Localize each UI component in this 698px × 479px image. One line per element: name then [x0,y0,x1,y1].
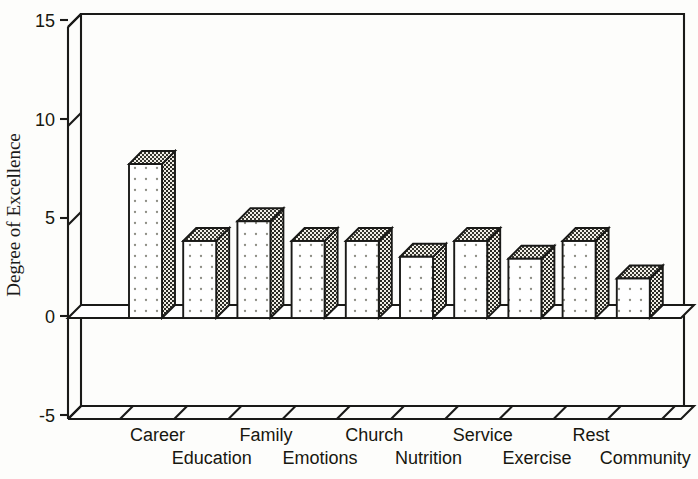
bar-front-face [563,241,596,318]
bar-nutrition [400,244,446,318]
bar-front-face [454,241,487,318]
bar-side-face [162,151,175,318]
bar-front-face [617,279,650,318]
category-label-exercise: Exercise [502,448,571,468]
bar-front-face [183,241,216,318]
bar-side-face [379,228,392,318]
y-tick-label-0: 15 [35,11,55,31]
bar-front-face [237,221,270,318]
y-tick-label-3: 0 [45,307,55,327]
bar-front-face [129,164,162,318]
category-label-rest: Rest [573,425,610,445]
category-label-career: Career [130,425,185,445]
bar-emotions [292,228,338,318]
y-axis-title: Degree of Excellence [3,133,24,297]
chart-container: Degree of Excellence 151050-5 CareerEduc… [0,0,698,479]
bar-chart: Degree of Excellence 151050-5 CareerEduc… [0,0,698,479]
bar-side-face [270,208,283,318]
category-label-emotions: Emotions [283,448,358,468]
bar-service [454,228,500,318]
category-label-service: Service [453,425,513,445]
y-tick-label-4: -5 [39,406,55,426]
bar-career [129,151,175,318]
y-tick-label-1: 10 [35,110,55,130]
bar-side-face [325,228,338,318]
bar-side-face [596,228,609,318]
y-tick-label-2: 5 [45,208,55,228]
bar-side-face [216,228,229,318]
category-label-education: Education [172,448,252,468]
bar-front-face [292,241,325,318]
bar-rest [563,228,609,318]
bar-exercise [508,246,554,318]
category-label-nutrition: Nutrition [395,448,462,468]
bar-front-face [508,259,541,318]
bar-education [183,228,229,318]
bar-front-face [346,241,379,318]
bar-church [346,228,392,318]
bar-community [617,266,663,318]
category-label-community: Community [600,448,691,468]
bar-side-face [487,228,500,318]
bar-front-face [400,257,433,318]
bar-family [237,208,283,318]
category-label-family: Family [239,425,292,445]
category-label-church: Church [345,425,403,445]
